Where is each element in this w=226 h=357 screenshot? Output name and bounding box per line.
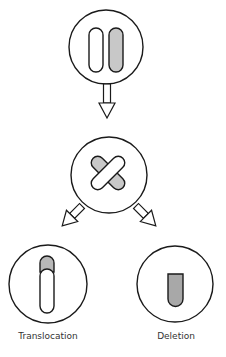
deletion-label: Deletion xyxy=(157,331,195,341)
translocation-label: Translocation xyxy=(18,331,78,341)
arrow-down-icon xyxy=(99,84,115,118)
white-chromosome-icon xyxy=(89,28,103,72)
arrow-down-left-icon xyxy=(57,200,88,231)
deletion-node xyxy=(137,246,213,322)
crossing-node xyxy=(71,137,147,213)
shortened-chromosome-icon xyxy=(168,274,183,307)
shaded-chromosome-icon xyxy=(109,28,123,72)
translocation-node xyxy=(9,245,87,323)
chromosome-pair-node xyxy=(69,10,143,84)
white-chromosome-icon xyxy=(40,269,54,313)
arrow-down-right-icon xyxy=(130,200,161,231)
pair-circle xyxy=(69,10,143,84)
diagram-canvas xyxy=(0,0,226,357)
